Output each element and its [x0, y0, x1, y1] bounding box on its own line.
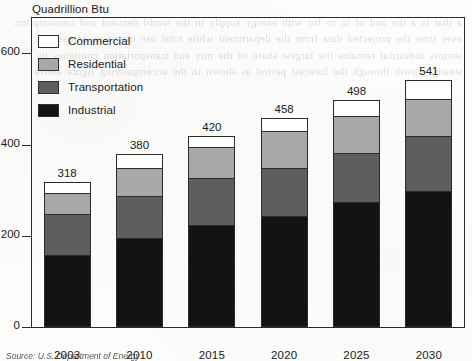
bar-total-label: 458: [261, 103, 308, 115]
bar-segment-residential: [406, 99, 451, 136]
bar-segment-industrial: [262, 216, 307, 326]
stacked-bar-2020[interactable]: [261, 118, 308, 327]
bar-total-label: 498: [333, 85, 380, 97]
bar-group-2025[interactable]: 4982025: [333, 17, 380, 328]
bar-segment-residential: [262, 131, 307, 168]
y-axis-label: 400: [0, 137, 20, 149]
bar-segment-commercial: [117, 155, 162, 168]
bar-group-2010[interactable]: 3802010: [116, 17, 163, 328]
bar-segment-transportation: [406, 136, 451, 191]
bar-segment-commercial: [262, 119, 307, 131]
stacked-bar-2030[interactable]: [405, 80, 452, 327]
stacked-bar-2003[interactable]: [44, 182, 91, 327]
bar-total-label: 380: [116, 139, 163, 151]
bar-segment-industrial: [334, 202, 379, 326]
bar-segment-transportation: [334, 153, 379, 202]
scanned-page: a that is a the and of in to for with en…: [0, 0, 472, 361]
chart-title: Quadrillion Btu: [32, 3, 109, 15]
x-axis-label-2020: 2020: [261, 349, 308, 361]
bar-total-label: 420: [188, 121, 235, 133]
bar-segment-transportation: [189, 178, 234, 224]
bar-segment-residential: [334, 116, 379, 153]
bar-total-label: 541: [405, 65, 452, 77]
bar-segment-residential: [189, 147, 234, 178]
bar-group-2030[interactable]: 5412030: [405, 17, 452, 328]
bar-segment-residential: [117, 168, 162, 196]
y-axis-label: 200: [0, 228, 20, 240]
bar-segment-industrial: [189, 225, 234, 326]
bar-segment-commercial: [45, 183, 90, 193]
bar-group-2003[interactable]: 3182003: [44, 17, 91, 328]
bar-segment-commercial: [189, 137, 234, 148]
y-axis-tick: [22, 53, 31, 54]
bar-segment-transportation: [45, 214, 90, 255]
bar-segment-commercial: [334, 101, 379, 116]
bar-total-label: 318: [44, 167, 91, 179]
bar-segment-commercial: [406, 81, 451, 99]
y-axis-tick: [22, 327, 31, 328]
x-axis-label-2025: 2025: [333, 349, 380, 361]
y-axis-label: 600: [0, 45, 20, 57]
source-note: Source: U.S. Department of Energy: [6, 351, 140, 361]
bar-segment-industrial: [406, 191, 451, 326]
bar-group-2020[interactable]: 4582020: [261, 17, 308, 328]
y-axis-tick: [22, 236, 31, 237]
stacked-bar-2025[interactable]: [333, 100, 380, 327]
bar-segment-residential: [45, 193, 90, 214]
bar-segment-industrial: [45, 255, 90, 326]
plot-area: 3182003380201042020154582020498202554120…: [31, 17, 465, 328]
bar-segment-transportation: [262, 168, 307, 215]
bar-segment-transportation: [117, 196, 162, 238]
y-axis-label: 0: [0, 319, 20, 331]
x-axis-label-2015: 2015: [188, 349, 235, 361]
stacked-bar-2010[interactable]: [116, 154, 163, 327]
y-axis-tick: [22, 145, 31, 146]
x-axis-label-2030: 2030: [405, 349, 452, 361]
stacked-bar-2015[interactable]: [188, 136, 235, 327]
bar-segment-industrial: [117, 238, 162, 326]
bar-group-2015[interactable]: 4202015: [188, 17, 235, 328]
